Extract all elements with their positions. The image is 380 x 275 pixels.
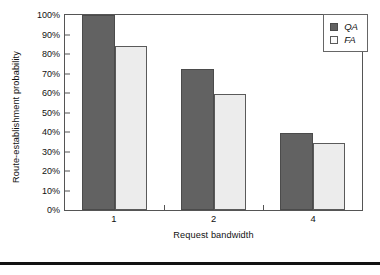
bar-fa-1 (115, 46, 147, 210)
plot-area: 100%90%80%70%60%50%40%30%20%10%0% (64, 14, 363, 211)
bar-fa-4 (313, 143, 345, 210)
y-tick-label: 80% (42, 49, 60, 59)
bar-group (65, 15, 164, 210)
y-tick-label: 60% (42, 88, 60, 98)
legend-label: FA (344, 35, 356, 45)
x-tick-label: 4 (263, 213, 363, 224)
y-tick-label: 0% (47, 205, 60, 215)
y-tick-label: 10% (42, 186, 60, 196)
x-tick-label: 1 (64, 213, 164, 224)
legend-swatch-icon (330, 36, 338, 44)
legend-item-qa: QA (330, 20, 358, 33)
x-tick-label: 2 (164, 213, 264, 224)
legend-swatch-icon (330, 23, 338, 31)
bar-fa-2 (214, 94, 246, 210)
y-tick-label: 20% (42, 166, 60, 176)
y-axis-title: Route-establishment probability (11, 17, 21, 217)
x-tick-mark (164, 205, 165, 210)
y-tick-label: 90% (42, 30, 60, 40)
figure: Route-establishment probability 100%90%8… (0, 0, 380, 275)
bottom-divider (0, 262, 380, 265)
bar-qa-2 (181, 69, 213, 210)
legend-label: QA (344, 22, 358, 32)
x-axis-tick-labels: 124 (64, 213, 363, 224)
bar-qa-4 (280, 133, 312, 210)
legend-item-fa: FA (330, 33, 358, 46)
bar-group (164, 15, 263, 210)
x-tick-mark (263, 205, 264, 210)
bar-qa-1 (82, 15, 114, 210)
y-tick-label: 40% (42, 127, 60, 137)
y-tick-label: 70% (42, 69, 60, 79)
y-tick-label: 30% (42, 147, 60, 157)
y-tick-label: 100% (37, 10, 60, 20)
bar-groups (65, 15, 362, 210)
x-axis-title: Request bandwidth (64, 230, 363, 240)
y-tick-label: 50% (42, 108, 60, 118)
legend: QAFA (323, 14, 368, 52)
